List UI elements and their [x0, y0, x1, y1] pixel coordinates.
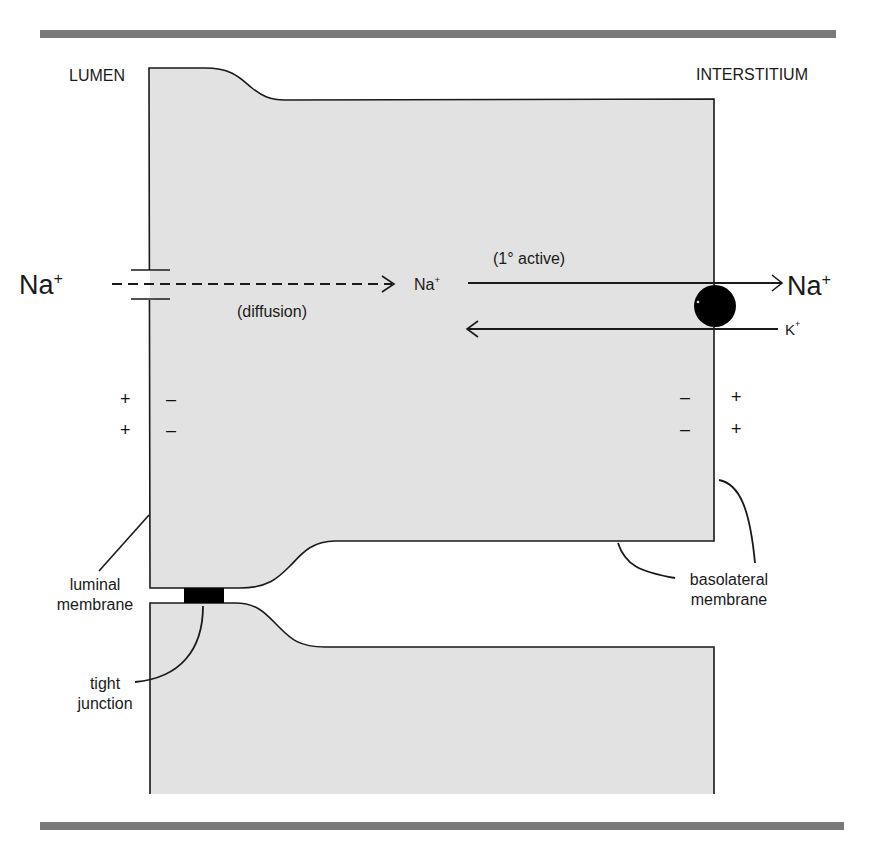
cell-basolateral-charge-minus-1: – — [680, 388, 690, 406]
intracellular-na-label: Na+ — [414, 277, 440, 293]
basolateral-membrane-label: basolateral membrane — [676, 570, 782, 610]
cell-luminal-charge-minus-2: – — [166, 421, 176, 439]
lumen-charge-plus-2: + — [120, 421, 131, 439]
lower-cell — [150, 603, 714, 794]
charge-superscript: + — [54, 269, 63, 287]
interstitial-na-label: Na+ — [787, 273, 831, 300]
diagram-canvas — [0, 0, 879, 857]
interstitium-charge-plus-2: + — [731, 420, 742, 438]
potassium-label: K+ — [785, 322, 800, 337]
tight-junction-label: tight junction — [70, 674, 140, 714]
cell-luminal-charge-minus-1: – — [166, 390, 176, 408]
interstitium-label: INTERSTITIUM — [696, 67, 808, 83]
lumen-charge-plus-1: + — [120, 390, 131, 408]
na-k-pump-icon — [694, 285, 736, 327]
charge-superscript: + — [822, 270, 831, 288]
top-rule-bar — [40, 30, 836, 38]
luminal-membrane-leader — [99, 515, 149, 571]
luminal-na-label: Na+ — [19, 272, 63, 299]
charge-superscript: + — [795, 319, 800, 329]
cell-basolateral-charge-minus-2: – — [680, 420, 690, 438]
diffusion-label: (diffusion) — [237, 304, 307, 320]
charge-superscript: + — [434, 274, 440, 285]
luminal-membrane-label: luminal membrane — [45, 575, 145, 615]
pump-highlight — [697, 301, 700, 304]
lumen-label: LUMEN — [69, 68, 125, 84]
basolateral-leader-lower — [618, 543, 675, 578]
interstitium-charge-plus-1: + — [731, 388, 742, 406]
bottom-rule-bar — [40, 822, 844, 830]
active-transport-label: (1° active) — [493, 251, 565, 267]
tight-junction — [184, 588, 224, 603]
basolateral-leader-upper — [719, 480, 755, 563]
